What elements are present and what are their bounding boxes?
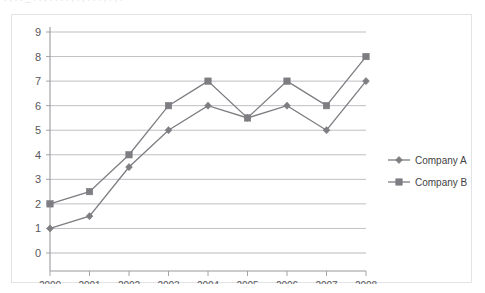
x-axis-tick-label: 2006	[276, 280, 299, 284]
data-point	[323, 102, 329, 108]
chart-legend: Company ACompany B	[388, 155, 468, 188]
data-point	[284, 78, 290, 84]
y-axis-tick-label: 4	[35, 149, 41, 161]
data-point	[363, 53, 369, 59]
chart-frame: 0123456789 20002001200220032004200520062…	[11, 14, 472, 283]
legend-item-company-b[interactable]: Company B	[388, 177, 468, 188]
data-point	[244, 115, 250, 121]
data-point	[86, 188, 92, 194]
legend-label: Company A	[415, 155, 467, 166]
data-point	[47, 225, 54, 232]
x-axis-tick-label: 2003	[157, 280, 180, 284]
y-axis-tick-label: 2	[35, 198, 41, 210]
legend-marker	[396, 156, 403, 163]
line-chart-svg: 0123456789 20002001200220032004200520062…	[12, 15, 473, 284]
y-axis-tick-label: 9	[35, 26, 41, 38]
y-axis-tick-label: 5	[35, 124, 41, 136]
y-axis-tick-label: 7	[35, 75, 41, 87]
x-axis-tick-label: 2001	[78, 280, 101, 284]
x-axis-tick-label: 2008	[355, 280, 378, 284]
data-point	[205, 78, 211, 84]
y-axis-tick-labels: 0123456789	[35, 26, 41, 259]
legend-label: Company B	[415, 177, 468, 188]
y-axis-tick-label: 3	[35, 173, 41, 185]
data-point	[205, 102, 212, 109]
x-axis-tick-label: 2007	[315, 280, 338, 284]
x-axis-tick-label: 2000	[39, 280, 62, 284]
x-axis-ticks	[50, 271, 366, 276]
page-bleed-text: . , . . _ . . , . . . . , . , . . . , . …	[4, 0, 123, 3]
legend-marker	[396, 179, 402, 185]
data-point	[126, 152, 132, 158]
y-axis-tick-label: 6	[35, 100, 41, 112]
data-series-layer	[47, 53, 370, 232]
x-axis-tick-labels: 200020012002200320042005200620072008	[39, 280, 378, 284]
y-axis-tick-label: 8	[35, 51, 41, 63]
x-axis-tick-label: 2004	[197, 280, 220, 284]
data-point	[165, 102, 171, 108]
legend-item-company-a[interactable]: Company A	[388, 155, 467, 166]
plot-area: 0123456789 20002001200220032004200520062…	[12, 15, 473, 284]
data-point	[284, 102, 291, 109]
data-point	[47, 201, 53, 207]
x-axis-tick-label: 2005	[236, 280, 259, 284]
y-axis-tick-label: 1	[35, 222, 41, 234]
chart-figure: . , . . _ . . , . . . . , . , . . . , . …	[0, 0, 485, 293]
y-axis-tick-label: 0	[35, 247, 41, 259]
page-text-bleed: . , . . _ . . , . . . . , . , . . . , . …	[0, 0, 485, 11]
x-axis-tick-label: 2002	[118, 280, 141, 284]
gridlines	[46, 32, 366, 253]
